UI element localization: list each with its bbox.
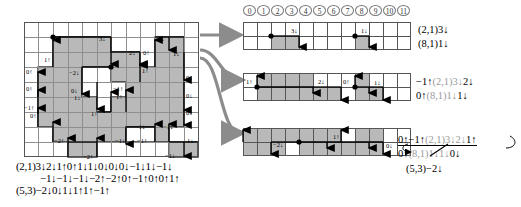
sequence-line-1: (2,1)3↓2↓1↑0↑1↓1↓0↓0↓0↓−1↓1↓−1↓: [16, 160, 179, 172]
grid-label: 0↓: [186, 109, 193, 116]
grid-label: 2↓: [129, 49, 136, 56]
panel-2-annot-grey: (8,1)1↓: [427, 90, 458, 101]
grid-label: 0↑: [143, 49, 150, 56]
panel-2-annotations: −1↑(2,1)3↓2↓ 0↑(8,1)1↓1↓: [416, 76, 474, 101]
column-circle: 2: [271, 5, 284, 16]
grid-label: 3↓: [99, 35, 106, 42]
grid-label: 0↓: [186, 74, 193, 81]
strip-panel-bottom: −2↓ 1↑ 0↓: [243, 128, 411, 156]
column-circle: 6: [327, 5, 340, 16]
panel-1-annotation: (2,1)3↓: [418, 24, 449, 35]
panel-2-annot-suffix: 2↓: [463, 76, 474, 87]
panel-3-label: 1↑: [333, 133, 340, 140]
panel-1-label: 3↓: [291, 27, 298, 34]
panel-1-label: 1↓: [361, 27, 368, 34]
grid-label: 1↑: [116, 93, 123, 100]
grid-label: −2↓: [69, 69, 79, 76]
traversal-arrows: [24, 22, 199, 157]
panel-2-label: 2↓: [318, 78, 325, 85]
sequence-line-2: −1↓−1↓−1↓−2↑−2↑0↑−1↑0↑0↑1↑: [16, 172, 179, 184]
panel-2-annot-prefix: 0↑: [416, 90, 427, 101]
column-index-circles: 0 1 2 3 4 5 6 7 8 9 10 11: [243, 5, 413, 17]
panel-1-arrows: [243, 22, 411, 50]
grid-label: −1↑: [24, 104, 34, 111]
panel-1-annotations: (2,1)3↓ (8,1)1↓: [418, 24, 449, 49]
panel-2-label: 0↑: [343, 78, 350, 85]
panel-2-annot-suffix: 1↓: [457, 90, 468, 101]
grid-label: 0↑: [30, 112, 37, 119]
column-circle: 3: [285, 5, 298, 16]
grid-label: −1↓: [135, 123, 145, 130]
grid-label: 1↓: [173, 50, 180, 57]
panel-2-arrows: [243, 73, 411, 101]
panel-2-annot-grey: (2,1)3↓: [432, 76, 463, 87]
grid-label: 1↑: [44, 56, 51, 63]
strip-panel-middle: 1↑ 2↓ 0↑ 1↓: [243, 73, 411, 101]
grid-label: −1↓: [165, 152, 175, 159]
grid-label: 1↑: [142, 67, 149, 74]
grid-label: −1↓: [115, 137, 125, 144]
grid-label: 0↑: [26, 68, 33, 75]
grid-label: 1↑: [91, 110, 98, 117]
column-circle: 9: [369, 5, 382, 16]
grid-label: 1↓: [187, 137, 194, 144]
wrap-around-arrow: [400, 134, 518, 160]
grid-label: −1↑: [113, 85, 123, 92]
column-circle: 7: [341, 5, 354, 16]
panel-1-annotation: (8,1)1↓: [418, 38, 449, 49]
sequence-line-3: (5,3)−2↓0↓1↓1↑1↑−1↑: [16, 184, 179, 196]
grid-label: −2↑: [83, 153, 93, 160]
panel-3-label: 0↓: [386, 142, 393, 149]
column-circle: 0: [243, 5, 256, 16]
column-circle: 8: [355, 5, 368, 16]
grid-label: 0↓: [71, 87, 78, 94]
grid-label: 0↑: [26, 85, 33, 92]
grid-label: −1↓: [163, 123, 173, 130]
column-circle: 10: [383, 5, 396, 16]
strip-panel-top: 3↓ 1↓: [243, 22, 411, 50]
main-sequence-text: (2,1)3↓2↓1↑0↑1↓1↓0↓0↓0↓−1↓1↓−1↓ −1↓−1↓−1…: [16, 160, 179, 196]
grid-label: 1↓: [74, 94, 81, 101]
panel-2-label: 1↑: [246, 78, 253, 85]
panel-3-annot-final: (5,3)−2↓: [406, 163, 485, 174]
panel-2-label: 1↓: [374, 79, 381, 86]
panel-2-annot-prefix: −1↑: [416, 76, 432, 87]
grid-label: −2↑: [54, 137, 64, 144]
main-grid: 1↑ 3↓ 1↓ 2↓ 0↑ 1↓ 0↑ 0↑ 1↑ −2↓ 0↓ 1↓ −1↑…: [24, 22, 199, 157]
column-circle: 1: [257, 5, 270, 16]
panel-3-label: −2↓: [273, 141, 283, 148]
grid-label: 1↓: [158, 35, 165, 42]
column-circle: 11: [397, 5, 410, 16]
column-circle: 4: [299, 5, 312, 16]
grid-label: 0↓: [186, 92, 193, 99]
grid-label: −1↑: [137, 137, 147, 144]
column-circle: 5: [313, 5, 326, 16]
